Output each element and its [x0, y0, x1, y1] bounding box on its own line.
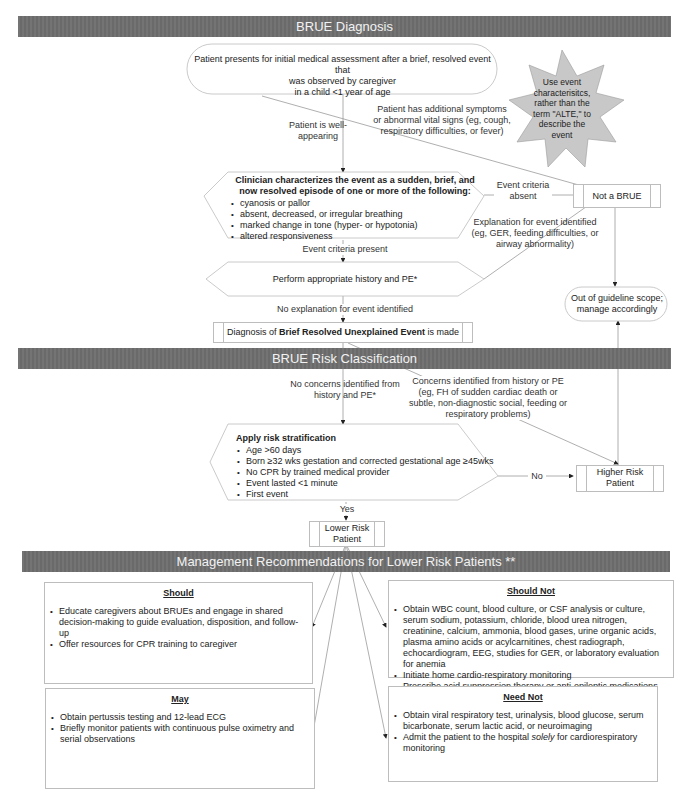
label-no-concerns: No concerns identified from history and …: [290, 379, 400, 401]
risk-strat-item: Event lasted <1 minute: [246, 478, 496, 489]
lower-risk-label: Lower Risk Patient: [310, 523, 384, 545]
label-criteria-absent: Event criteria absent: [494, 180, 552, 202]
risk-strat-item: Age >60 days: [246, 445, 496, 456]
risk-strat-item: Born ≥32 wks gestation and corrected ges…: [246, 456, 496, 467]
history-pe-node: Perform appropriate history and PE*: [230, 274, 460, 285]
label-concerns: Concerns identified from history or PE (…: [408, 376, 568, 420]
need-not-title: Need Not: [389, 692, 657, 702]
start-node: Patient presents for initial medical ass…: [190, 54, 495, 98]
section-banner-risk: BRUE Risk Classification: [18, 348, 671, 369]
need-not-item: Admit the patient to the hospital solely…: [403, 732, 651, 754]
risk-strat-node: Apply risk stratification Age >60 days B…: [236, 433, 496, 500]
should-not-item: Initiate home cardio-respiratory monitor…: [403, 670, 667, 681]
risk-strat-item: No CPR by trained medical provider: [246, 467, 496, 478]
star-note: Use event characterisitcs, rather than t…: [533, 77, 591, 140]
diagnosis-made-node: Diagnosis of Brief Resolved Unexplained …: [213, 322, 473, 343]
may-box: May Obtain pertussis testing and 12-lead…: [45, 688, 315, 789]
section-banner-diagnosis: BRUE Diagnosis: [18, 16, 671, 37]
section-banner-management: Management Recommendations for Lower Ris…: [22, 551, 670, 572]
need-not-item: Obtain viral respiratory test, urinalysi…: [403, 710, 651, 732]
label-well-appearing: Patient is well-appearing: [288, 120, 348, 142]
should-title: Should: [45, 588, 312, 598]
characterize-item: altered responsiveness: [240, 231, 480, 242]
higher-risk-label: Higher Risk Patient: [577, 467, 663, 489]
start-line-1: Patient presents for initial medical ass…: [190, 54, 495, 76]
start-line-2: was observed by caregiver: [190, 76, 495, 87]
characterize-node: Clinician characterizes the event as a s…: [230, 175, 480, 242]
diagnosis-prefix: Diagnosis of: [227, 327, 279, 337]
diagnosis-bold: Brief Resolved Unexplained Event: [279, 327, 425, 337]
risk-strat-item: First event: [246, 489, 496, 500]
not-brue-node: Not a BRUE: [573, 184, 661, 208]
should-not-item: Obtain WBC count, blood culture, or CSF …: [403, 604, 667, 670]
characterize-item: marked change in tone (hyper- or hypoton…: [240, 220, 480, 231]
admit-text-a: Admit the patient to the hospital: [403, 732, 532, 742]
characterize-item: absent, decreased, or irregular breathin…: [240, 209, 480, 220]
should-not-box: Should Not Obtain WBC count, blood cultu…: [388, 580, 674, 678]
should-item: Educate caregivers about BRUEs and engag…: [59, 606, 306, 639]
should-box: Should Educate caregivers about BRUEs an…: [44, 582, 313, 684]
label-no-explanation: No explanation for event identified: [270, 304, 420, 315]
risk-strat-title: Apply risk stratification: [236, 433, 496, 444]
higher-risk-node: Higher Risk Patient: [576, 465, 664, 492]
characterize-item: cyanosis or pallor: [240, 198, 480, 209]
should-not-title: Should Not: [389, 586, 673, 596]
characterize-title: Clinician characterizes the event as a s…: [230, 175, 480, 197]
diagnosis-suffix: is made: [425, 327, 459, 337]
may-item: Briefly monitor patients with continuous…: [60, 723, 308, 745]
may-title: May: [46, 694, 314, 704]
lower-risk-node: Lower Risk Patient: [309, 521, 385, 547]
admit-emphasis: solely: [532, 732, 555, 742]
out-of-scope-node: Out of guideline scope; manage according…: [567, 293, 667, 315]
label-no: No: [528, 471, 546, 482]
label-criteria-present: Event criteria present: [290, 244, 400, 255]
label-additional-symptoms: Patient has additional symptoms or abnor…: [372, 104, 512, 137]
should-item: Offer resources for CPR training to care…: [59, 639, 306, 650]
label-yes: Yes: [336, 504, 358, 515]
need-not-box: Need Not Obtain viral respiratory test, …: [388, 686, 658, 782]
label-explanation-identified: Explanation for event identified (eg, GE…: [470, 217, 600, 250]
may-item: Obtain pertussis testing and 12-lead ECG: [60, 712, 308, 723]
start-line-3: in a child <1 year of age: [190, 87, 495, 98]
not-brue-label: Not a BRUE: [592, 191, 641, 201]
